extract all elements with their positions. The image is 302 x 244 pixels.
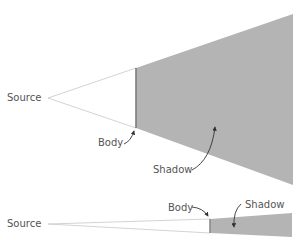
top-shadow-region: [136, 14, 293, 185]
bottom-shadow-label: Shadow: [245, 199, 284, 210]
top-body-label: Body: [98, 137, 123, 148]
bottom-shadow-region: [210, 213, 292, 237]
top-diagram: Source Body Shadow: [7, 14, 293, 185]
bottom-body-arrow-icon: [192, 207, 208, 216]
top-light-cone: [48, 68, 136, 128]
top-shadow-label: Shadow: [153, 164, 192, 175]
bottom-light-cone: [48, 219, 210, 233]
top-source-label: Source: [7, 92, 41, 103]
top-body-arrow-icon: [124, 131, 134, 144]
bottom-body-label: Body: [168, 202, 193, 213]
bottom-source-label: Source: [7, 218, 41, 229]
shadow-diagram: Source Body Shadow Source Body Shadow: [0, 0, 302, 244]
bottom-diagram: Source Body Shadow: [7, 199, 292, 237]
